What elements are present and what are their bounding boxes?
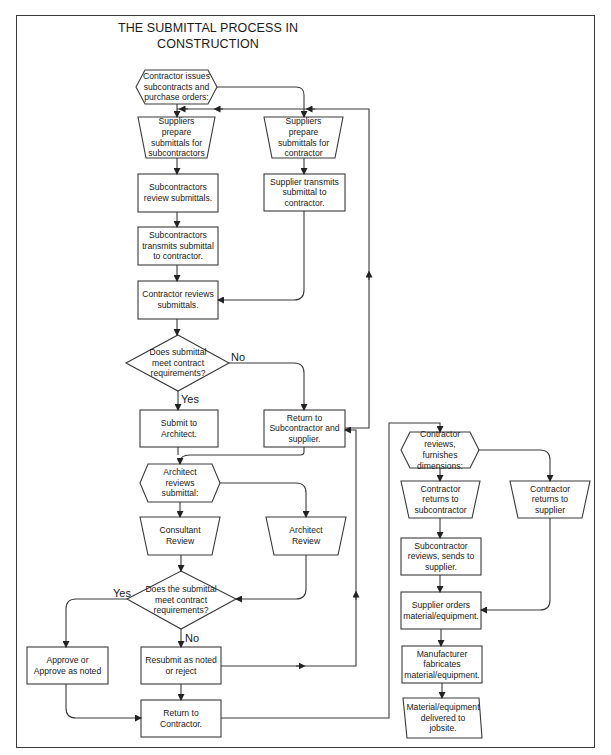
- node-architect-reviews: Architect reviews submittal:: [148, 464, 212, 502]
- node-delivered-to-jobsite: Material/equipment delivered to jobsite.: [405, 698, 481, 738]
- node-contractor-issues: Contractor issues subcontracts and purch…: [140, 70, 213, 104]
- node-return-to-subcontractor: Return to Subcontractor and supplier.: [264, 410, 345, 447]
- node-submit-to-architect: Submit to Architect.: [140, 410, 218, 447]
- node-decision-1: Does submittal meet contract requirement…: [140, 340, 216, 386]
- node-resubmit-or-reject: Resubmit as noted or reject: [141, 647, 221, 684]
- node-return-to-contractor: Return to Contractor.: [141, 700, 221, 737]
- node-contractor-reviews: Contractor reviews submittals.: [138, 281, 218, 319]
- node-returns-to-subcontractor: Contractor returns to subcontractor: [405, 481, 476, 518]
- node-subcontractor-sends-supplier: Subcontractor reviews, sends to supplier…: [401, 538, 481, 575]
- edge-label-d2-yes: Yes: [113, 587, 131, 599]
- node-approve: Approve or Approve as noted: [27, 647, 108, 684]
- edge-label-d1-yes: Yes: [181, 393, 199, 405]
- node-architect-review: Architect Review: [272, 517, 340, 555]
- node-suppliers-prepare-contractor: Suppliers prepare submittals for contrac…: [268, 117, 339, 158]
- node-supplier-transmits: Supplier transmits submittal to contract…: [264, 174, 345, 211]
- edge-label-d2-no: No: [185, 632, 199, 644]
- node-subcontractors-review: Subcontractors review submittals.: [138, 174, 218, 212]
- node-returns-to-supplier: Contractor returns to supplier: [518, 481, 582, 518]
- connectors-layer: [0, 0, 611, 755]
- edge-label-d1-no: No: [231, 351, 245, 363]
- node-contractor-furnishes: Contractor reviews, furnishes dimensions…: [408, 432, 472, 468]
- node-subcontractors-transmit: Subcontractors transmits submittal to co…: [138, 227, 218, 265]
- node-suppliers-prepare-subcontractors: Suppliers prepare submittals for subcont…: [141, 117, 212, 158]
- node-supplier-orders: Supplier orders material/equipment.: [401, 592, 481, 629]
- node-consultant-review: Consultant Review: [146, 517, 214, 555]
- node-decision-2: Does the submittal meet contract require…: [138, 578, 224, 622]
- node-manufacturer-fabricates: Manufacturer fabricates material/equipme…: [402, 646, 482, 683]
